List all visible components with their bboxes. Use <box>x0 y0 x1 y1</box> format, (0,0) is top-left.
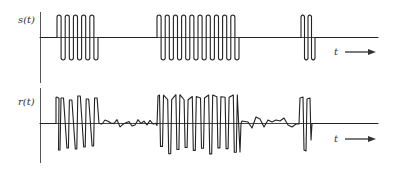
panel-s: s(t) t <box>18 12 378 83</box>
panel-r: r(t) t <box>18 88 378 163</box>
r-time-arrow-icon <box>345 136 376 142</box>
r-label: r(t) <box>18 96 35 107</box>
r-t-label: t <box>334 133 339 144</box>
s-label: s(t) <box>18 14 35 25</box>
signal-diagram: s(t) t r(t) t <box>0 0 395 170</box>
r-signal-trace <box>40 95 378 154</box>
s-time-arrow-icon <box>345 49 376 55</box>
s-t-label: t <box>334 46 339 57</box>
